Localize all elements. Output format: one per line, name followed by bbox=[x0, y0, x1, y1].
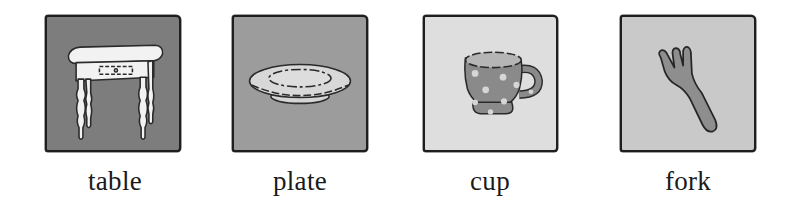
table-icon bbox=[47, 17, 179, 150]
card-table[interactable] bbox=[45, 15, 181, 152]
label-cup: cup bbox=[410, 166, 570, 197]
label-table: table bbox=[35, 166, 195, 197]
fork-icon bbox=[622, 17, 754, 150]
plate-icon bbox=[234, 17, 366, 150]
card-plate[interactable] bbox=[232, 15, 368, 152]
label-fork: fork bbox=[608, 166, 768, 197]
card-cup[interactable] bbox=[423, 15, 558, 152]
card-fork[interactable] bbox=[620, 15, 756, 152]
cup-icon bbox=[425, 17, 556, 150]
label-plate: plate bbox=[220, 166, 380, 197]
